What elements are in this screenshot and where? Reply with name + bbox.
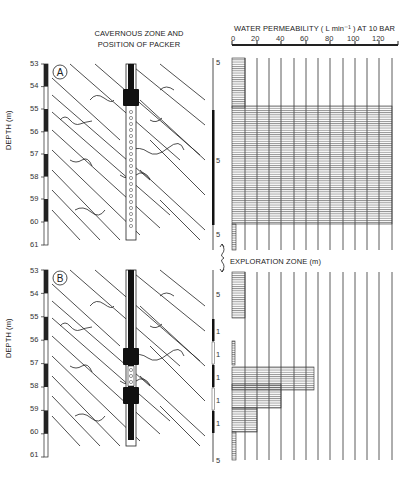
exploration-zone-brace: [220, 244, 224, 272]
bar-a-1: [232, 58, 245, 108]
bar-a-2: [232, 106, 392, 224]
panel-a-marker: A: [57, 67, 64, 78]
panel-a: A: [41, 58, 392, 250]
bar-a-3: [232, 224, 236, 250]
panel-b: B: [41, 270, 392, 462]
bar-b-6: [232, 432, 236, 460]
bar-b-2: [232, 341, 235, 365]
bar-b-5: [232, 408, 257, 432]
figure-graphics: A: [0, 0, 412, 478]
x-axis-scale: [232, 41, 398, 45]
bar-b-1: [232, 272, 245, 318]
panel-b-marker: B: [57, 273, 64, 284]
bar-b-4: [232, 384, 281, 408]
